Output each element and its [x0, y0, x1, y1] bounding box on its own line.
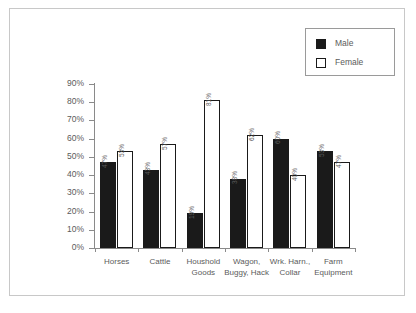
y-tick-label: 80%	[67, 96, 84, 106]
y-tick-mark	[89, 157, 94, 158]
x-tick-mark	[355, 248, 356, 252]
bar-value-label: 57%	[162, 137, 169, 150]
y-tick-label: 70%	[67, 114, 84, 124]
bar-value-label: 53%	[119, 144, 126, 157]
y-tick-mark	[89, 248, 94, 249]
bar-female: 47%	[334, 162, 350, 248]
x-tick-mark	[312, 248, 313, 252]
legend-swatch-female-icon	[316, 58, 326, 68]
bar-value-label: 62%	[249, 128, 256, 141]
bar-female: 40%	[290, 175, 306, 248]
legend-swatch-male-icon	[316, 39, 326, 49]
category-label: Farm Equipment	[306, 256, 361, 278]
x-tick-mark	[182, 248, 183, 252]
x-tick-mark	[268, 248, 269, 252]
bar-value-label: 43%	[145, 162, 152, 175]
bar-value-label: 47%	[335, 155, 342, 168]
bar-value-label: 47%	[102, 155, 109, 168]
y-tick-mark	[89, 139, 94, 140]
bar-group: 53%47%	[312, 84, 355, 248]
x-tick-mark	[95, 248, 96, 252]
bar-group: 38%62%	[225, 84, 268, 248]
y-tick-label: 90%	[67, 78, 84, 88]
y-tick-mark	[89, 84, 94, 85]
bar-male: 43%	[143, 170, 159, 248]
bar-male: 19%	[187, 213, 203, 248]
x-tick-mark	[225, 248, 226, 252]
bar-male: 60%	[273, 139, 289, 248]
y-tick-label: 20%	[67, 206, 84, 216]
y-tick-mark	[89, 193, 94, 194]
y-tick-label: 30%	[67, 187, 84, 197]
bar-group: 19%81%	[182, 84, 225, 248]
x-tick-mark	[138, 248, 139, 252]
bar-value-label: 38%	[232, 171, 239, 184]
bar-male: 38%	[230, 179, 246, 248]
chart-legend: Male Female	[305, 28, 395, 76]
bar-value-label: 40%	[292, 168, 299, 181]
y-tick-label: 40%	[67, 169, 84, 179]
legend-item-female: Female	[316, 53, 394, 72]
bar-female: 53%	[117, 151, 133, 248]
y-tick-mark	[89, 102, 94, 103]
y-tick-mark	[89, 120, 94, 121]
chart-figure: Male Female 90%80%70%60%50%40%30%20%10%0…	[0, 0, 416, 313]
bar-group: 47%53%	[95, 84, 138, 248]
bar-value-label: 81%	[205, 93, 212, 106]
bar-value-label: 60%	[275, 131, 282, 144]
plot-area: 47%53%43%57%19%81%38%62%60%40%53%47%	[95, 84, 355, 248]
bar-male: 47%	[100, 162, 116, 248]
y-tick-label: 60%	[67, 133, 84, 143]
legend-label-female: Female	[335, 58, 363, 67]
bar-male: 53%	[317, 151, 333, 248]
bar-group: 43%57%	[138, 84, 181, 248]
y-tick-mark	[89, 230, 94, 231]
y-tick-mark	[89, 175, 94, 176]
bar-female: 62%	[247, 135, 263, 248]
legend-label-male: Male	[335, 39, 353, 48]
bar-female: 57%	[160, 144, 176, 248]
bar-value-label: 53%	[318, 144, 325, 157]
y-tick-label: 10%	[67, 224, 84, 234]
y-tick-mark	[89, 212, 94, 213]
bar-value-label: 19%	[188, 206, 195, 219]
bar-group: 60%40%	[268, 84, 311, 248]
y-tick-label: 0%	[72, 242, 84, 252]
legend-item-male: Male	[316, 34, 394, 53]
y-tick-label: 50%	[67, 151, 84, 161]
bar-female: 81%	[204, 100, 220, 248]
